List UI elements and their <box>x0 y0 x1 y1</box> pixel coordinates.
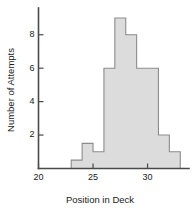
y-axis-title: Number of Attempts <box>5 48 16 132</box>
x-axis-title: Position in Deck <box>66 194 134 205</box>
y-tick-label: 6 <box>29 63 34 73</box>
histogram-figure: 2468 202530 Number of Attempts Position … <box>0 0 194 212</box>
x-tick-label: 25 <box>88 172 98 182</box>
y-tick-label: 4 <box>29 96 34 106</box>
y-axis-ticks: 2468 <box>29 29 43 139</box>
histogram-plot: 2468 202530 Number of Attempts Position … <box>0 0 194 212</box>
x-tick-label: 30 <box>143 172 153 182</box>
x-tick-label: 20 <box>33 172 43 182</box>
y-tick-label: 8 <box>29 29 34 39</box>
histogram-bars <box>71 18 180 168</box>
y-tick-label: 2 <box>29 129 34 139</box>
